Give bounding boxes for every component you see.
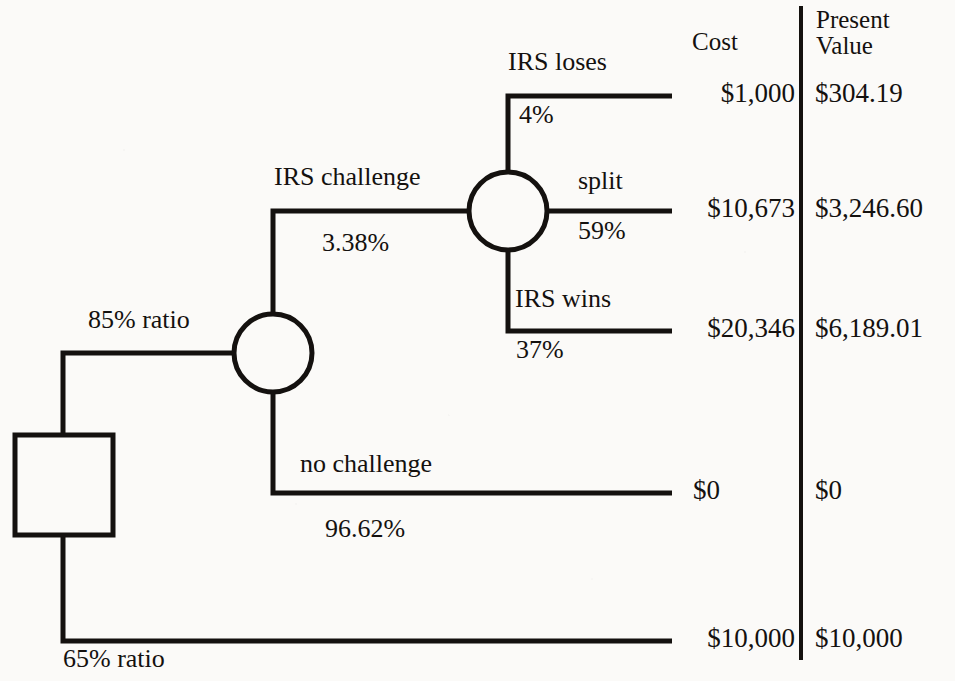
- chance-circle-node-2: [469, 172, 547, 250]
- decision-square-node: [15, 435, 113, 535]
- cost-value-split: $10,673: [580, 194, 795, 223]
- cost-column-header: Cost: [692, 28, 738, 55]
- branch-label-65-ratio: 65% ratio: [63, 645, 165, 673]
- tree-lines: [0, 0, 955, 681]
- branch-label-irs-loses: IRS loses: [508, 48, 607, 76]
- branch-prob-irs-challenge: 3.38%: [322, 229, 389, 257]
- branch-label-85-ratio: 85% ratio: [88, 306, 190, 334]
- branch-label-irs-wins: IRS wins: [515, 285, 611, 313]
- cost-value-irs-wins: $20,346: [580, 314, 795, 343]
- present-value-split: $3,246.60: [815, 194, 923, 223]
- cost-value-irs-loses: $1,000: [580, 79, 795, 108]
- branch-label-irs-challenge: IRS challenge: [274, 163, 421, 191]
- branch-irs-challenge-line: [273, 211, 469, 314]
- present-value-column-header-line2: Value: [816, 32, 873, 59]
- decision-tree-figure: Cost Present Value IRS loses 4% split 59…: [0, 0, 955, 681]
- branch-prob-irs-wins: 37%: [516, 336, 564, 364]
- present-value-column-header-line1: Present: [816, 6, 890, 33]
- chance-circle-node-1: [234, 314, 312, 392]
- branch-85-ratio-line: [63, 353, 237, 435]
- present-value-no-challenge: $0: [815, 476, 842, 505]
- branch-prob-no-challenge: 96.62%: [325, 515, 405, 543]
- present-value-ratio-65: $10,000: [815, 624, 903, 653]
- branch-label-no-challenge: no challenge: [300, 450, 432, 478]
- branch-label-split: split: [578, 167, 623, 195]
- cost-value-no-challenge: $0: [580, 476, 720, 505]
- cost-value-ratio-65: $10,000: [580, 624, 795, 653]
- present-value-irs-loses: $304.19: [815, 79, 903, 108]
- present-value-irs-wins: $6,189.01: [815, 314, 923, 343]
- branch-prob-irs-loses: 4%: [519, 101, 554, 129]
